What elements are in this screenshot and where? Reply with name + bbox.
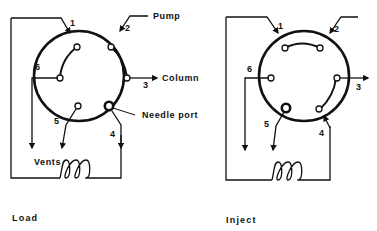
inject-groove-1-2 xyxy=(285,44,320,49)
inject-port-2 xyxy=(317,45,323,51)
load-line-loop-left xyxy=(11,18,60,178)
inject-port-label-6: 6 xyxy=(247,64,252,74)
load-line-vent-5 xyxy=(62,109,76,148)
load-port-label-2: 2 xyxy=(125,23,130,33)
inject-port-label-3: 3 xyxy=(356,82,361,92)
load-groove-1-6 xyxy=(60,47,77,77)
load-port-5 xyxy=(75,103,81,109)
inject-line-vent-5 xyxy=(273,112,284,150)
load-labels: 1 2 3 4 5 6 Pump Column Needle port Vent… xyxy=(12,11,199,223)
inject-port-4 xyxy=(316,106,322,112)
column-label: Column xyxy=(162,73,199,83)
load-line-port-4 xyxy=(100,111,121,178)
load-port-label-6: 6 xyxy=(35,62,40,72)
load-port-3 xyxy=(124,75,130,81)
inject-arrow-port-4 xyxy=(324,116,330,128)
load-port-1 xyxy=(74,44,80,50)
needle-port-icon xyxy=(105,102,113,110)
load-port-label-5: 5 xyxy=(54,116,59,126)
inject-port-label-1: 1 xyxy=(278,21,283,31)
load-port-label-4: 4 xyxy=(110,129,115,139)
load-panel xyxy=(11,16,157,178)
vents-label: Vents xyxy=(34,157,61,167)
inject-line-port-1 xyxy=(226,17,278,33)
inject-needle-port-icon xyxy=(282,104,290,112)
load-sample-loop-icon xyxy=(60,160,100,178)
load-line-port-1 xyxy=(11,18,70,33)
load-port-2 xyxy=(108,44,114,50)
inject-sample-loop-icon xyxy=(272,162,312,180)
valve-diagram: 1 2 3 4 5 6 Pump Column Needle port Vent… xyxy=(0,0,377,231)
load-port-label-3: 3 xyxy=(143,80,148,90)
inject-port-label-2: 2 xyxy=(334,24,339,34)
load-port-label-1: 1 xyxy=(70,18,75,28)
inject-port-1 xyxy=(282,45,288,51)
inject-caption: Inject xyxy=(226,215,257,225)
pump-label: Pump xyxy=(153,11,180,21)
needle-port-label: Needle port xyxy=(142,110,198,120)
load-caption: Load xyxy=(12,213,38,223)
inject-port-label-5: 5 xyxy=(264,119,269,129)
inject-port-3 xyxy=(334,75,340,81)
inject-groove-3-4 xyxy=(320,78,336,109)
inject-port-label-4: 4 xyxy=(319,128,324,138)
inject-panel xyxy=(226,17,368,180)
inject-line-vent-6 xyxy=(245,78,269,150)
load-needle-leader xyxy=(113,108,135,115)
